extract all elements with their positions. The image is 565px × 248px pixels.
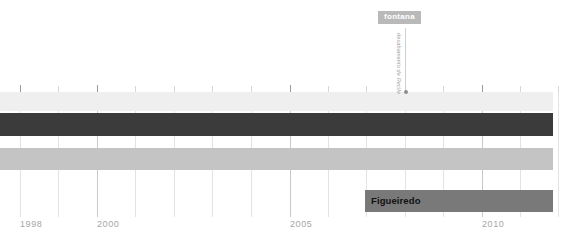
timeline-bar-track-2[interactable] bbox=[0, 113, 553, 136]
gridline bbox=[558, 92, 559, 217]
axis-tick bbox=[558, 86, 559, 93]
timeline-chart: Figueiredo fontana desabamento de Recife… bbox=[0, 0, 565, 248]
event-vertical-label: desabamento de Recife bbox=[396, 33, 402, 94]
event-stem-line bbox=[405, 28, 406, 92]
axis-label-2005: 2005 bbox=[290, 219, 312, 229]
bar-fill bbox=[0, 92, 553, 111]
event-badge-label[interactable]: fontana bbox=[378, 11, 421, 24]
bar-fill bbox=[0, 113, 553, 136]
bar-left-tip-icon bbox=[0, 113, 13, 136]
axis-label-2000: 2000 bbox=[97, 219, 119, 229]
bar-fill bbox=[0, 148, 553, 170]
bar-left-tip-icon bbox=[0, 148, 13, 170]
event-dot-icon bbox=[404, 90, 408, 94]
axis-label-2010: 2010 bbox=[482, 219, 504, 229]
timeline-bar-track-3[interactable] bbox=[0, 148, 553, 170]
bar-label-figueiredo: Figueiredo bbox=[371, 195, 421, 206]
axis-label-1998: 1998 bbox=[20, 219, 42, 229]
timeline-bar-track-1[interactable] bbox=[0, 92, 553, 111]
bar-left-tip-icon bbox=[0, 92, 13, 111]
